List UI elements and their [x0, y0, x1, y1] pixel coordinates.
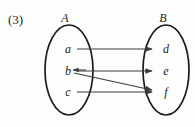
mapping-diagram: (3) A B a b c d e f	[0, 0, 195, 127]
element-a: a	[65, 42, 71, 56]
set-label-a: A	[60, 11, 69, 25]
element-f: f	[164, 85, 169, 99]
figure-number: (3)	[8, 12, 23, 27]
figure-canvas: (3) A B a b c d e f	[0, 0, 195, 127]
element-c: c	[65, 85, 71, 99]
element-e: e	[163, 64, 169, 78]
element-d: d	[163, 42, 170, 56]
arrow-b-to-f	[74, 73, 152, 90]
set-label-b: B	[159, 11, 167, 25]
element-b: b	[65, 64, 71, 78]
